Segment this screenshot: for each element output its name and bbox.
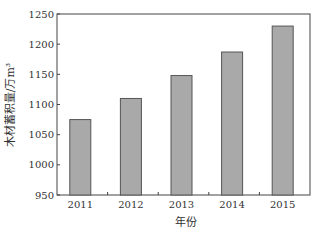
bar-2011 <box>70 120 91 195</box>
y-axis-title: 木材蓄积量/万m³ <box>3 63 17 148</box>
y-axis: 950100010501100115012001250 <box>29 9 60 201</box>
bar-chart: 950100010501100115012001250 201120122013… <box>0 0 318 235</box>
bars <box>70 26 293 195</box>
y-tick-label: 1200 <box>29 39 54 50</box>
x-tick-label: 2012 <box>118 199 143 210</box>
x-tick-label: 2013 <box>169 199 194 210</box>
y-tick-label: 1050 <box>29 129 54 140</box>
bar-2013 <box>171 76 192 195</box>
x-axis-title: 年份 <box>175 215 197 229</box>
x-tick-label: 2015 <box>270 199 295 210</box>
y-tick-label: 1250 <box>29 9 54 20</box>
y-tick-label: 1150 <box>29 69 54 80</box>
y-tick-label: 1100 <box>29 99 54 110</box>
y-tick-label: 1000 <box>29 159 54 170</box>
bar-2014 <box>222 52 243 195</box>
x-tick-label: 2014 <box>219 199 244 210</box>
x-tick-label: 2011 <box>68 199 93 210</box>
bar-2012 <box>120 98 141 195</box>
bar-2015 <box>272 26 293 195</box>
y-tick-label: 950 <box>35 190 54 201</box>
